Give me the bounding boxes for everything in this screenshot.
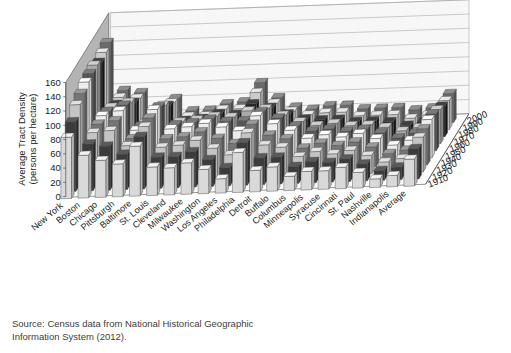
bar-side [192,159,195,195]
bar-side [441,105,444,143]
bar-side [415,155,418,186]
bar-side [423,133,426,172]
bar-side [277,163,280,191]
bar-front [129,146,140,196]
source-line-1: Source: Census data from National Histor… [12,317,312,330]
bar-side [432,115,435,158]
bar [267,163,280,192]
bar [335,163,348,189]
y-tick-label-60: 60 [50,148,61,159]
bar [78,151,91,198]
bar-front [318,171,329,190]
bar-side [449,96,452,129]
bar [250,166,263,192]
bar-side [157,163,160,196]
bar-front [95,160,106,197]
bar [352,168,365,188]
y-tick-label-40: 40 [50,162,61,173]
bar [404,155,417,187]
y-tick-label-140: 140 [45,91,61,102]
bar-side [106,156,109,197]
bar-side [174,163,177,194]
bar-side [428,124,431,165]
y-tick-label-80: 80 [50,134,61,145]
bar [147,163,160,196]
bar-front [198,169,209,194]
bar [181,159,194,195]
bar-front [61,137,72,199]
bar [370,174,383,187]
bar-front [78,155,89,198]
y-tick-label-100: 100 [45,120,61,131]
bar [284,172,297,191]
y-axis-title-line-2: (persons per hectare) [27,94,38,185]
bar-front [267,167,278,192]
y-tick-label-20: 20 [50,177,61,188]
bar-front [284,176,295,191]
bar-front [250,170,261,192]
y-axis-title: Average Tract Density(persons per hectar… [16,92,38,186]
bar-side [89,151,92,198]
bar-front [112,164,123,197]
y-tick-label-120: 120 [45,105,61,116]
bar-front [404,159,415,186]
bar [301,167,314,190]
bar [164,163,177,195]
bar [232,148,245,193]
bar-side [72,133,75,199]
bar-front [387,175,398,187]
bar [95,156,108,198]
bar-side [243,148,246,192]
source-note: Source: Census data from National Histor… [12,317,312,343]
bar-front [352,172,363,188]
source-line-2: Information System (2012). [12,330,312,343]
bar-side [419,144,422,179]
bar [387,171,400,187]
bar-front [164,168,175,195]
y-axis-title-line-1: Average Tract Density [16,92,27,186]
bar [318,166,331,189]
y-tick-label-160: 160 [45,77,61,88]
bar-front [301,171,312,190]
bar-front [232,152,243,192]
bar [112,160,125,197]
bar-side [123,160,126,197]
bar-side [454,89,457,122]
bar-side [445,102,448,137]
bar [215,174,228,193]
bar [129,142,142,196]
bar [198,165,211,194]
bar-side [140,142,143,196]
bar-side [436,109,439,150]
bar-front [147,167,158,196]
bar-side [209,165,212,193]
tract-density-3d-bar-chart: 020406080100120140160Average Tract Densi… [0,0,511,353]
bar-front [181,163,192,195]
bar [61,133,74,199]
chart-page: 020406080100120140160Average Tract Densi… [0,0,511,353]
bar-front [215,179,226,194]
bar-front [335,167,346,189]
bar-front [370,179,381,188]
